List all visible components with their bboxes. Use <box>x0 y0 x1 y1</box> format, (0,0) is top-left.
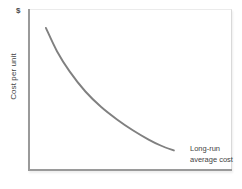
figure-container: $ Cost per unit Long-run average cost <box>0 0 242 189</box>
curve-annotation: Long-run average cost <box>190 144 233 166</box>
long-run-average-cost-curve <box>46 28 174 150</box>
curve-annotation-line-1: Long-run <box>190 144 220 153</box>
curve-annotation-line-2: average cost <box>190 155 233 166</box>
